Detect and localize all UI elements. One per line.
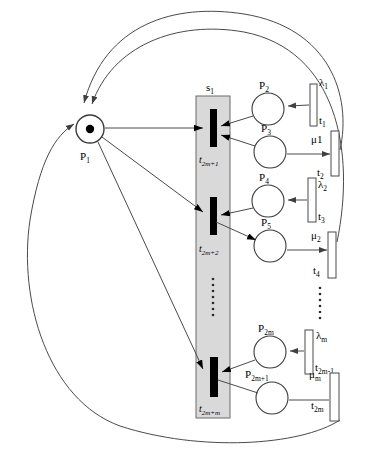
transition-t4-bar[interactable] — [328, 232, 336, 278]
place-p2[interactable] — [252, 93, 284, 125]
place-p3[interactable] — [254, 136, 286, 168]
transition-t2m1-bar[interactable] — [210, 109, 217, 147]
place-p2m1[interactable] — [256, 382, 288, 414]
place-p5[interactable] — [254, 230, 286, 262]
token-p1 — [86, 125, 94, 133]
transition-t3-bar[interactable] — [308, 178, 316, 222]
transition-t2mb-bar[interactable] — [330, 373, 339, 421]
transition-t1-bar[interactable] — [310, 84, 317, 126]
transition-t2mm-bar[interactable] — [210, 357, 218, 397]
rate-mu1-label: μ1 — [311, 133, 322, 145]
place-p2m[interactable] — [254, 336, 286, 368]
transition-t2-bar[interactable] — [331, 131, 339, 176]
transition-t2m2-bar[interactable] — [210, 197, 217, 235]
place-p4[interactable] — [252, 185, 284, 217]
petri-net-figure: P1 t2m+1 P2 P3 λ1 t1 μ1 t2 t2m+2 P4 — [0, 0, 367, 460]
